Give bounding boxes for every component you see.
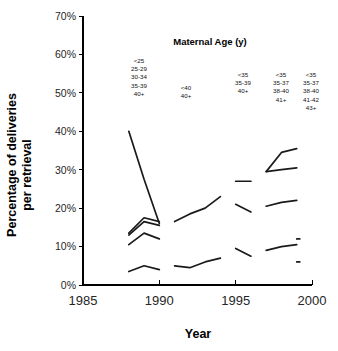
legend-entry-label: 41-42 bbox=[303, 96, 319, 103]
x-tick-label: 1985 bbox=[69, 293, 98, 308]
chart-figure: 0%10%20%30%40%50%60%70% 1985199019952000… bbox=[0, 0, 338, 351]
data-series-line bbox=[266, 200, 297, 206]
x-tick-group: 1985199019952000 bbox=[69, 280, 327, 308]
x-tick-label: 1990 bbox=[145, 293, 174, 308]
legend-entry-label: 38-40 bbox=[273, 87, 289, 94]
legend-entry-label: <40 bbox=[181, 84, 192, 91]
y-tick-group: 0%10%20%30%40%50%60%70% bbox=[55, 10, 83, 291]
axes-group bbox=[83, 16, 312, 285]
data-series-line bbox=[266, 168, 297, 172]
legend-entry-label: <35 bbox=[306, 71, 317, 78]
legend-entry-label: 40+ bbox=[134, 90, 145, 97]
legend-entry-label: 35-39 bbox=[235, 79, 251, 86]
data-series-group bbox=[129, 131, 300, 271]
data-series-line bbox=[175, 258, 221, 268]
data-series-line bbox=[129, 266, 160, 272]
data-series-line bbox=[236, 204, 251, 212]
data-series-line bbox=[266, 245, 297, 251]
y-tick-label: 30% bbox=[55, 164, 76, 176]
y-tick-label: 70% bbox=[55, 10, 76, 22]
legend-entry-label: 40+ bbox=[238, 87, 249, 94]
y-tick-label: 60% bbox=[55, 48, 76, 60]
legend-entry-label: <35 bbox=[276, 71, 287, 78]
data-series-line bbox=[129, 131, 160, 223]
legend-entry-label: 35-37 bbox=[303, 79, 319, 86]
y-tick-label: 50% bbox=[55, 87, 76, 99]
x-tick-label: 2000 bbox=[298, 293, 327, 308]
legend-title: Maternal Age (y) bbox=[173, 36, 247, 47]
legend-entry-label: 35-37 bbox=[273, 79, 289, 86]
x-axis-title: Year bbox=[185, 327, 212, 341]
legend-entry-label: 40+ bbox=[181, 92, 192, 99]
legend-entry-label: 35-39 bbox=[131, 82, 147, 89]
legend-entry-label: 43+ bbox=[306, 104, 317, 111]
legend-entry-label: 25-29 bbox=[131, 65, 147, 72]
y-axis-title-line1: Percentage of deliveries bbox=[5, 93, 19, 237]
line-chart: 0%10%20%30%40%50%60%70% 1985199019952000… bbox=[0, 0, 338, 351]
y-tick-label: 0% bbox=[61, 279, 76, 291]
data-series-line bbox=[129, 233, 160, 245]
y-axis-title-line2: per retrieval bbox=[20, 139, 34, 211]
legend-group: <2525-2930-3435-3940+<4040+<3535-3940+<3… bbox=[131, 57, 319, 111]
y-tick-label: 20% bbox=[55, 202, 76, 214]
legend-entry-label: 30-34 bbox=[131, 73, 147, 80]
y-tick-label: 10% bbox=[55, 240, 76, 252]
y-tick-label: 40% bbox=[55, 125, 76, 137]
legend-entry-label: 38-40 bbox=[303, 87, 319, 94]
legend-entry-label: 41+ bbox=[276, 96, 287, 103]
x-tick-label: 1995 bbox=[221, 293, 250, 308]
data-series-line bbox=[236, 248, 251, 256]
legend-entry-label: <35 bbox=[238, 71, 249, 78]
data-series-line bbox=[175, 197, 221, 222]
legend-entry-label: <25 bbox=[134, 57, 145, 64]
